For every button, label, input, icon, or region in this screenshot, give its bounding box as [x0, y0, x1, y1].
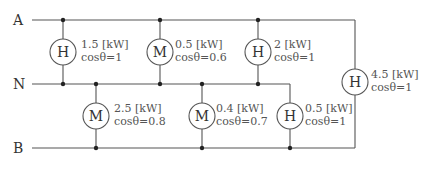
junction-node	[94, 146, 98, 150]
motor-load-2-5kw: M 2.5 [kW] cosθ=0.8	[83, 102, 166, 129]
single-phase-three-wire-circuit-diagram: A N B H 1.5 [kW] cosθ=1 M 0.5 [kW] cosθ=…	[0, 0, 426, 171]
junction-node	[200, 146, 204, 150]
junction-node	[256, 18, 260, 22]
load-power-label: 2 [kW]	[274, 38, 311, 51]
junction-node	[200, 82, 204, 86]
junction-node	[94, 82, 98, 86]
bus-label-a: A	[12, 12, 24, 28]
junction-node	[61, 82, 65, 86]
bus-label-b: B	[13, 140, 23, 156]
load-power-factor-label: cosθ=0.7	[216, 115, 268, 128]
junction-node	[256, 82, 260, 86]
junction-node	[158, 82, 162, 86]
load-power-factor-label: cosθ=0.8	[114, 115, 166, 128]
load-type-label: H	[57, 44, 69, 60]
load-power-factor-label: cosθ=1	[371, 81, 412, 94]
bus-label-n: N	[13, 76, 25, 92]
load-type-label: M	[195, 108, 209, 124]
load-power-label: 0.5 [kW]	[175, 38, 223, 51]
load-power-label: 1.5 [kW]	[81, 38, 129, 51]
load-power-label: 0.4 [kW]	[216, 102, 264, 115]
load-power-factor-label: cosθ=1	[81, 51, 122, 64]
motor-load-0-5kw: M 0.5 [kW] cosθ=0.6	[147, 38, 227, 65]
load-type-label: M	[153, 44, 167, 60]
load-type-label: M	[89, 108, 103, 124]
heater-load-4-5kw: H 4.5 [kW] cosθ=1	[342, 68, 419, 95]
junction-node	[61, 18, 65, 22]
load-power-label: 4.5 [kW]	[371, 68, 419, 81]
load-power-factor-label: cosθ=1	[305, 115, 346, 128]
load-power-factor-label: cosθ=0.6	[175, 51, 227, 64]
load-power-factor-label: cosθ=1	[274, 51, 315, 64]
load-type-label: H	[252, 44, 264, 60]
motor-load-0-4kw: M 0.4 [kW] cosθ=0.7	[189, 102, 268, 129]
junction-node	[288, 146, 292, 150]
load-power-label: 0.5 [kW]	[305, 102, 353, 115]
heater-load-2kw: H 2 [kW] cosθ=1	[245, 38, 315, 65]
junction-node	[158, 18, 162, 22]
load-type-label: H	[284, 108, 296, 124]
heater-load-0-5kw: H 0.5 [kW] cosθ=1	[277, 102, 353, 129]
load-type-label: H	[349, 74, 361, 90]
heater-load-1-5kw: H 1.5 [kW] cosθ=1	[50, 38, 129, 65]
load-power-label: 2.5 [kW]	[114, 102, 162, 115]
